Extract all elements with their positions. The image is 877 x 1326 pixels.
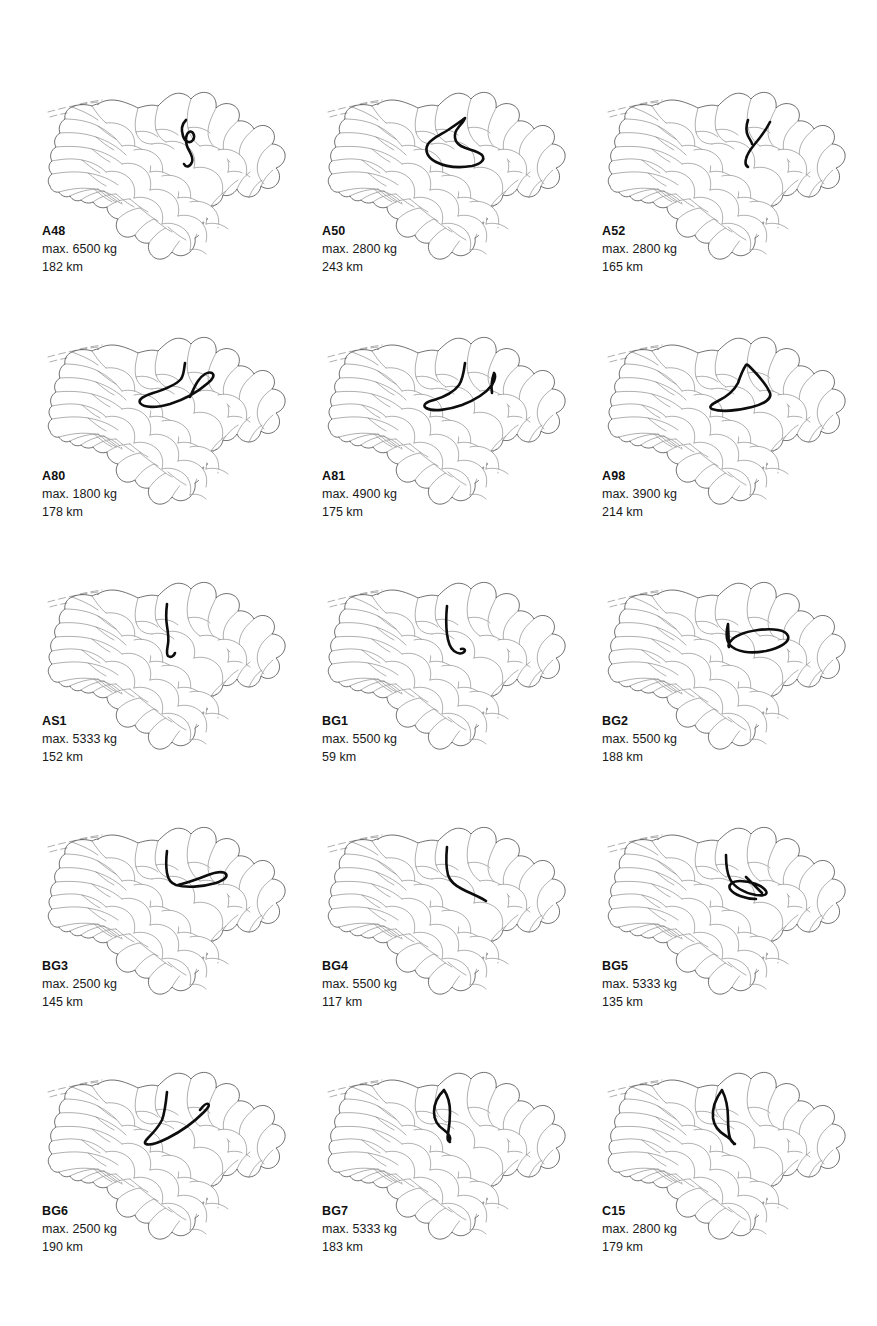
district-boundary: [612, 649, 666, 662]
district-boundary: [372, 596, 386, 613]
coastline-dash: [328, 1082, 378, 1092]
district-boundary: [223, 180, 238, 195]
district-boundary: [771, 191, 786, 206]
district-boundary: [491, 191, 506, 206]
district-boundary: [694, 1177, 723, 1204]
district-boundary: [771, 926, 786, 941]
max-weight-label: max. 3900 kg: [602, 485, 852, 503]
district-boundary: [118, 453, 140, 464]
max-weight-label: max. 2800 kg: [322, 240, 572, 258]
map-panel: BG3max. 2500 kg145 km: [40, 817, 320, 1062]
district-boundary: [211, 191, 226, 206]
coastline-dash: [48, 592, 98, 602]
district-boundary: [467, 1079, 480, 1126]
distance-label: 152 km: [42, 748, 292, 766]
district-boundary: [503, 1160, 518, 1175]
district-boundary: [194, 1147, 223, 1174]
district-boundary: [415, 353, 432, 389]
max-weight-label: max. 5500 kg: [322, 975, 572, 993]
district-boundary: [754, 412, 783, 439]
coastline-dash: [48, 837, 98, 847]
tour-id-label: A48: [42, 222, 292, 240]
panel-caption: BG6max. 2500 kg190 km: [42, 1202, 292, 1256]
max-weight-label: max. 5500 kg: [322, 730, 572, 748]
panel-caption: BG5max. 5333 kg135 km: [602, 957, 852, 1011]
district-boundary: [488, 108, 498, 150]
district-boundary: [783, 670, 798, 685]
district-boundary: [491, 1171, 506, 1186]
district-boundary: [135, 843, 152, 879]
district-boundary: [474, 412, 503, 439]
district-boundary: [211, 926, 226, 941]
district-boundary: [92, 841, 106, 858]
district-boundary: [414, 197, 443, 224]
max-weight-label: max. 4900 kg: [322, 485, 572, 503]
district-boundary: [92, 1086, 106, 1103]
district-boundary: [768, 353, 778, 395]
district-boundary: [694, 932, 723, 959]
map-panel: A48max. 6500 kg182 km: [40, 82, 320, 327]
district-boundary: [467, 589, 480, 636]
district-boundary: [398, 208, 420, 219]
max-weight-label: max. 1800 kg: [42, 485, 292, 503]
panel-caption: AS1max. 5333 kg152 km: [42, 712, 292, 766]
tour-id-label: BG5: [602, 957, 852, 975]
district-boundary: [678, 698, 700, 709]
district-boundary: [415, 1088, 432, 1124]
map-panel: A50max. 2800 kg243 km: [320, 82, 600, 327]
max-weight-label: max. 5333 kg: [322, 1220, 572, 1238]
district-boundary: [208, 108, 218, 150]
district-boundary: [652, 841, 666, 858]
district-boundary: [415, 843, 432, 879]
district-boundary: [467, 344, 480, 391]
district-boundary: [211, 1171, 226, 1186]
district-boundary: [332, 1139, 386, 1152]
district-boundary: [783, 180, 798, 195]
map-panel: A52max. 2800 kg165 km: [600, 82, 877, 327]
distance-label: 190 km: [42, 1238, 292, 1256]
max-weight-label: max. 6500 kg: [42, 240, 292, 258]
district-boundary: [537, 389, 552, 429]
district-boundary: [415, 598, 432, 634]
district-boundary: [695, 353, 712, 389]
district-boundary: [414, 442, 443, 469]
map-panel: AS1max. 5333 kg152 km: [40, 572, 320, 817]
district-boundary: [134, 932, 163, 959]
district-boundary: [678, 1188, 700, 1199]
district-boundary: [208, 598, 218, 640]
district-boundary: [491, 926, 506, 941]
district-boundary: [52, 159, 106, 172]
district-boundary: [223, 915, 238, 930]
max-weight-label: max. 5333 kg: [602, 975, 852, 993]
district-boundary: [695, 108, 712, 144]
district-boundary: [652, 596, 666, 613]
district-boundary: [187, 589, 200, 636]
tour-id-label: AS1: [42, 712, 292, 730]
district-boundary: [771, 436, 786, 451]
district-boundary: [768, 598, 778, 640]
district-boundary: [817, 634, 832, 674]
district-boundary: [783, 1160, 798, 1175]
district-boundary: [503, 425, 518, 440]
panel-caption: BG2max. 5500 kg188 km: [602, 712, 852, 766]
district-boundary: [694, 442, 723, 469]
district-boundary: [166, 631, 195, 658]
district-boundary: [817, 144, 832, 184]
coastline-dash: [48, 1082, 98, 1092]
district-boundary: [726, 141, 755, 168]
map-panel: BG4max. 5500 kg117 km: [320, 817, 600, 1062]
tour-route: [166, 604, 175, 657]
district-boundary: [817, 389, 832, 429]
district-boundary: [52, 1139, 106, 1152]
panel-caption: A50max. 2800 kg243 km: [322, 222, 572, 276]
district-boundary: [817, 879, 832, 919]
district-boundary: [612, 894, 666, 907]
district-boundary: [678, 943, 700, 954]
coastline-dash: [48, 347, 98, 357]
tour-id-label: BG4: [322, 957, 572, 975]
panel-caption: A98max. 3900 kg214 km: [602, 467, 852, 521]
coastline-dash: [328, 837, 378, 847]
district-boundary: [754, 1147, 783, 1174]
max-weight-label: max. 2800 kg: [602, 240, 852, 258]
tour-id-label: BG7: [322, 1202, 572, 1220]
